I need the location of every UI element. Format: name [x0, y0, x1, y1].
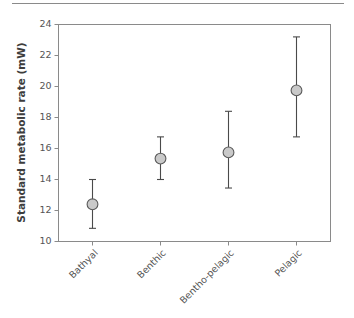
figure-container: 1012141618202224 BathyalBenthicBentho-pe… — [0, 0, 354, 318]
data-point-marker — [87, 199, 98, 210]
y-axis-tick-labels: 1012141618202224 — [39, 18, 51, 246]
y-axis-tick-label: 10 — [39, 235, 51, 246]
data-point-marker — [291, 85, 302, 96]
data-point-marker — [223, 147, 234, 158]
error-bars — [89, 37, 300, 228]
x-axis-ticks — [93, 242, 297, 246]
y-axis-tick-label: 20 — [39, 80, 51, 91]
y-axis-tick-label: 22 — [39, 49, 51, 60]
x-axis-tick-label: Benthic — [135, 247, 168, 280]
y-axis-tick-label: 24 — [39, 18, 51, 29]
x-axis-tick-label: Bathyal — [67, 247, 100, 280]
y-axis-ticks — [55, 25, 59, 242]
data-point-marker — [155, 153, 166, 164]
x-axis-tick-label: Bentho-pelagic — [177, 247, 236, 306]
y-axis-tick-label: 16 — [39, 142, 51, 153]
chart-canvas: 1012141618202224 BathyalBenthicBentho-pe… — [0, 0, 354, 318]
y-axis-tick-label: 12 — [39, 204, 51, 215]
y-axis-tick-label: 18 — [39, 111, 51, 122]
plot-frame — [59, 25, 331, 242]
x-axis-tick-label: Pelagic — [272, 247, 304, 279]
data-point-markers — [87, 85, 302, 210]
y-axis-tick-label: 14 — [39, 173, 51, 184]
x-axis-tick-labels: BathyalBenthicBentho-pelagicPelagic — [67, 247, 304, 306]
y-axis-label: Standard metabolic rate (mW) — [15, 42, 27, 222]
